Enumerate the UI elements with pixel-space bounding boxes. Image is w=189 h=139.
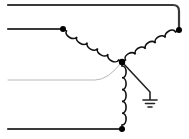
winding-coil-a [63,29,122,62]
winding-coil-c [122,62,126,129]
node-phase-b [176,27,182,33]
node-phase-a [60,26,66,32]
winding-coil-b [122,30,179,62]
wye-winding-diagram [0,0,189,139]
lead-wire-top [8,5,179,30]
lead-wire-neutral [8,62,122,80]
ground-icon [143,100,157,107]
node-phase-c [119,126,125,132]
node-neutral [119,59,125,65]
